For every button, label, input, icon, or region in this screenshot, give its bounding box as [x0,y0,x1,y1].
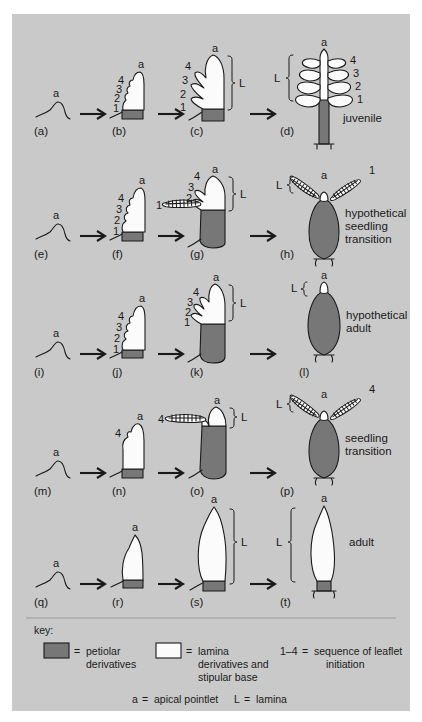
apical-label-j: a [139,292,146,304]
arrow-e-to-f [80,231,105,241]
leaflet-num-j-1: 1 [113,343,119,355]
lamina-label-p: L [276,398,283,410]
key-entry-lamina: = lamina derivatives and stipular base [156,643,269,683]
stage-id-l: (l) [299,366,309,378]
leaflet-num-p-4: 4 [369,383,375,395]
apical-label-t: a [321,492,328,504]
key-eq-petiolar: = [74,645,80,657]
stage-id-o: (o) [190,485,204,497]
arrow-g-to-h [250,231,275,241]
pinna-wing-h-right [328,176,361,202]
lamina-label-l: L [291,282,298,294]
key-swatch-petiolar [44,643,69,658]
lamina-label-o: L [241,411,248,423]
apical-label-c: a [212,42,219,54]
stage-id-h: (h) [280,248,294,260]
leaflet-num-k-4: 4 [193,286,199,298]
key-label-petiolar-line2: derivatives [86,658,136,670]
pinna-wing-p-right [328,395,361,421]
lamina-label-g: L [240,188,247,200]
key-entry-petiolar: = petiolar derivatives [44,643,136,670]
apical-label-n: a [137,410,144,422]
outcome-adult: adult [349,536,375,548]
leaflet-num-c-2: 2 [180,88,186,100]
arrow-n-to-o [158,468,183,478]
leaflet-num-g-1: 1 [156,199,162,211]
stage-id-t: (t) [280,596,291,608]
apical-label-f: a [139,174,146,186]
stage-id-n: (n) [112,485,126,497]
stage-id-q: (q) [34,596,48,608]
apical-label-a: a [53,87,60,99]
leaflet-num-d-2: 2 [355,80,361,92]
apical-label-b: a [138,58,145,70]
row-seedling-transition: a (m) a 4 (n) a 4 [34,383,392,497]
arrow-k-to-l [250,349,275,359]
key-footnote-L-text: lamina [256,693,287,705]
leaflet-num-d-3: 3 [353,67,359,79]
lamina-bracket-t [288,508,295,582]
apical-label-g: a [212,163,219,175]
apical-label-e: a [53,209,60,221]
leaflet-num-c-4: 4 [185,60,191,72]
apical-label-l: a [321,269,328,281]
key-heading: key: [34,624,53,636]
leaflet-num-n-4: 4 [115,427,121,439]
row-hypothetical-seedling-transition: a (e) a 4 3 2 1 (f) a [34,163,406,266]
lamina-label-t: L [276,536,283,548]
leaflet-num-d-4: 4 [350,54,356,66]
arrow-m-to-n [80,468,105,478]
key-eq-lamina: = [186,645,192,657]
key-label-lamina-line3: stipular base [198,671,258,683]
stage-r: a (r) [111,521,143,608]
stage-e: a (e) [34,209,70,260]
arrow-r-to-s [158,579,183,589]
outcome-seedling-transition-line2: transition [345,445,392,457]
leaflet-num-f-1: 1 [113,225,119,237]
key-eq-sequence: = [302,645,308,657]
apical-label-m: a [53,446,60,458]
stage-id-k: (k) [190,366,204,378]
lamina-label-k: L [240,297,247,309]
lamina-label-s: L [241,536,248,548]
outcome-juvenile: juvenile [342,112,382,124]
outcome-hypothetical-seedling-transition-line1: hypothetical [345,207,406,219]
lamina-bracket-o [230,408,237,428]
apical-label-i: a [53,327,60,339]
leaflet-num-k-1: 1 [184,316,190,328]
stage-j: a 4 3 2 1 (j) [110,292,146,378]
outcome-seedling-transition-line1: seedling [345,432,388,444]
pinna-wing-p-left [288,393,321,419]
arrow-a-to-b [80,109,105,119]
key-range-sequence: 1–4 [280,645,298,657]
stage-c: a 4 3 2 1 L (c) [180,42,246,137]
outcome-hypothetical-adult-line1: hypothetical [346,309,407,321]
lamina-label-c: L [239,77,246,89]
key-footnote-L-eq: = [244,693,250,705]
stage-id-g: (g) [190,248,204,260]
stage-s: a L (s) [190,493,248,608]
lamina-bracket-s [230,509,237,584]
lamina-bracket-g [229,177,236,211]
key-footnote-a-eq: = [142,693,148,705]
apical-label-s: a [211,493,218,505]
stage-id-s: (s) [190,596,204,608]
pinna-wing-h-left [288,174,321,200]
lamina-label-d: L [274,72,281,84]
stage-h: a 1 L (h) hypothetical seedling transiti… [276,164,406,266]
figure-panel: a (a) a 4 3 2 1 (b) a 4 3 [12,14,410,711]
stage-q: a (q) [34,557,70,608]
arrow-f-to-g [158,231,183,241]
leaflet-num-d-1: 1 [357,93,363,105]
apical-label-p: a [321,388,328,400]
stage-id-c: (c) [190,125,204,137]
stage-o: a 4 L (o) [158,394,248,497]
apical-label-k: a [213,271,220,283]
stage-n: a 4 (n) [110,410,144,497]
key-footnote-a-text: apical pointlet [154,693,218,705]
lamina-label-h: L [276,179,283,191]
lamina-bracket-l [301,282,307,296]
stage-k: a 4 3 2 1 L (k) [184,271,247,378]
key-label-sequence-line2: initiation [326,658,365,670]
apical-label-o: a [214,394,221,406]
